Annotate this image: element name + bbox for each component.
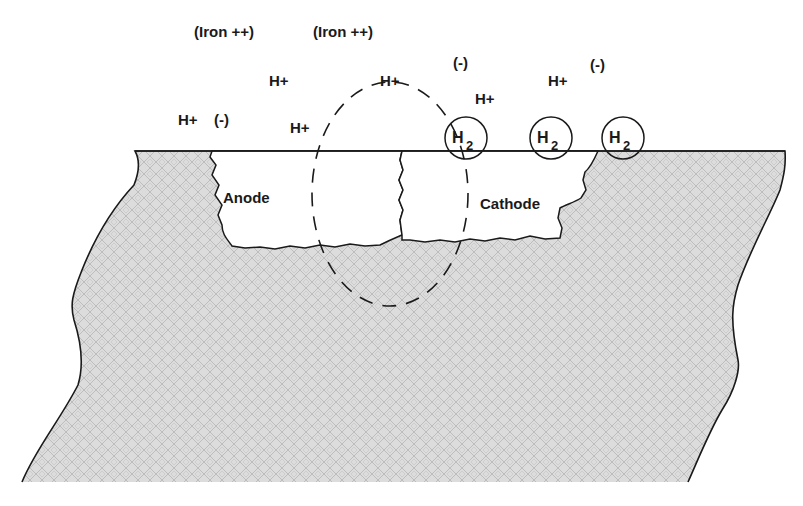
svg-text:2: 2 bbox=[466, 138, 473, 153]
electron-label: (-) bbox=[214, 111, 229, 128]
svg-text:H: H bbox=[537, 129, 549, 146]
hydrogen-ion-label: H+ bbox=[269, 72, 289, 89]
svg-text:2: 2 bbox=[623, 138, 630, 153]
hydrogen-gas-bubble: H 2 bbox=[445, 117, 487, 159]
iron-ion-label: (Iron ++) bbox=[313, 23, 373, 40]
cathode-label: Cathode bbox=[480, 195, 540, 212]
iron-ion-label: (Iron ++) bbox=[194, 23, 254, 40]
svg-text:2: 2 bbox=[551, 138, 558, 153]
hydrogen-gas-bubble: H 2 bbox=[602, 117, 644, 159]
hydrogen-ion-label: H+ bbox=[475, 90, 495, 107]
corrosion-cell-diagram: (Iron ++) (Iron ++) H+ H+ H+ H+ H+ H+ (-… bbox=[0, 0, 803, 506]
hydrogen-ion-label: H+ bbox=[178, 111, 198, 128]
hydrogen-ion-label: H+ bbox=[548, 72, 568, 89]
hydrogen-ion-label: H+ bbox=[380, 72, 400, 89]
anode-label: Anode bbox=[223, 189, 270, 206]
hydrogen-gas-bubble: H 2 bbox=[530, 117, 572, 159]
hydrogen-ion-label: H+ bbox=[290, 119, 310, 136]
electron-label: (-) bbox=[590, 56, 605, 73]
svg-text:H: H bbox=[452, 129, 464, 146]
electron-label: (-) bbox=[453, 54, 468, 71]
svg-text:H: H bbox=[609, 129, 621, 146]
